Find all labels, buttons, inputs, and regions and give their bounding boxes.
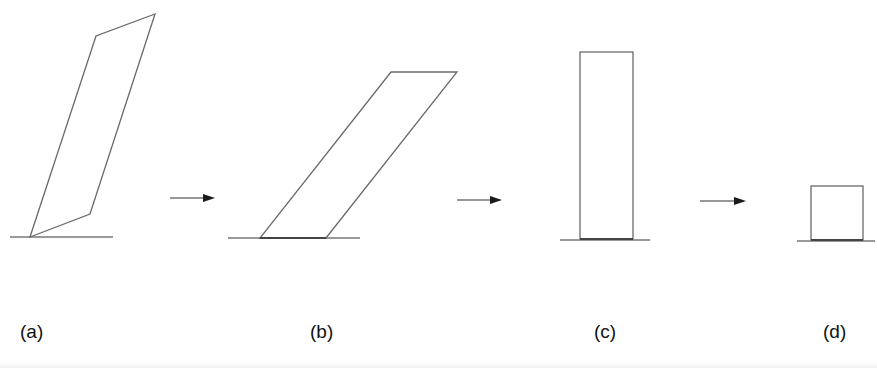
- panel-c: [560, 52, 650, 240]
- cut-off-caption: [0, 362, 877, 368]
- panel-label-a: (a): [20, 321, 43, 343]
- panel-d: [797, 186, 875, 241]
- shape-c: [580, 52, 633, 239]
- shape-b: [260, 72, 457, 238]
- panel-label-b: (b): [310, 321, 333, 343]
- panel-a: [10, 14, 155, 237]
- panel-label-d: (d): [823, 321, 846, 343]
- deformation-diagram: [0, 0, 877, 368]
- arrow-right-icon: [700, 197, 746, 205]
- panel-label-c: (c): [594, 321, 616, 343]
- shape-d: [811, 186, 863, 240]
- shape-a: [30, 14, 155, 237]
- arrow-right-icon: [457, 196, 502, 204]
- arrow-right-icon: [170, 194, 215, 202]
- panel-b: [228, 72, 457, 238]
